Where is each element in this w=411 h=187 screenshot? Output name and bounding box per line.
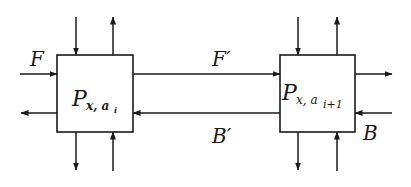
edge-label-F: F <box>29 47 45 71</box>
edge-label-B-prime: B′ <box>211 124 232 148</box>
diagram-canvas: P x, a i P x, a i+1 F F′ B′ B <box>0 0 411 187</box>
edge-label-F-prime: F′ <box>211 47 231 71</box>
right-box-label-subsub: i+1 <box>323 98 343 111</box>
left-box-label-subsub: i <box>114 105 117 115</box>
right-box-label-sub: x, a <box>296 93 318 107</box>
left-box-label-sub: x, a <box>85 99 109 113</box>
processor-box-left <box>57 55 133 132</box>
edge-label-B: B <box>362 121 378 145</box>
